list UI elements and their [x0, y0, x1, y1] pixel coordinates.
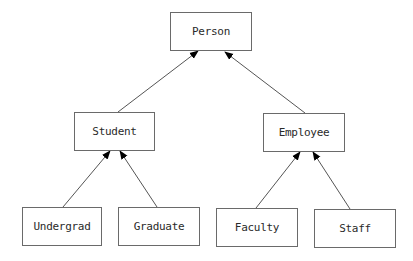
node-faculty: Faculty: [216, 208, 298, 247]
node-undergrad: Undergrad: [22, 207, 102, 246]
node-label: Faculty: [235, 221, 279, 234]
edge-undergrad-to-student: [63, 151, 110, 207]
node-label: Person: [192, 25, 230, 38]
node-graduate: Graduate: [118, 207, 200, 246]
edge-faculty-to-employee: [256, 152, 300, 208]
node-staff: Staff: [314, 209, 396, 248]
node-employee: Employee: [263, 113, 345, 152]
edge-staff-to-employee: [313, 152, 350, 209]
node-label: Graduate: [134, 220, 185, 233]
node-person: Person: [170, 12, 252, 51]
node-label: Staff: [339, 222, 371, 235]
node-label: Undergrad: [34, 220, 91, 233]
edge-graduate-to-student: [120, 151, 157, 207]
class-hierarchy-diagram: Person Student Employee Undergrad Gradua…: [0, 0, 413, 261]
edge-employee-to-person: [225, 52, 305, 113]
node-student: Student: [74, 112, 155, 151]
node-label: Employee: [279, 126, 330, 139]
edge-student-to-person: [118, 51, 198, 112]
node-label: Student: [92, 125, 136, 138]
